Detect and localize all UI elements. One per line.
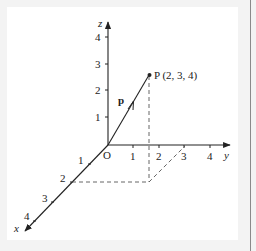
y-axis: 1 2 3 4 y <box>108 145 230 162</box>
x-axis: 1 2 3 4 x <box>13 145 108 234</box>
x-tick-2: 2 <box>60 172 66 184</box>
vector-label: p <box>118 94 124 106</box>
y-tick-2: 2 <box>156 150 162 162</box>
position-vector-p: p <box>108 75 149 145</box>
z-tick-2: 2 <box>95 84 101 96</box>
y-tick-3: 3 <box>181 150 187 162</box>
x-axis-label: x <box>13 222 19 234</box>
y-tick-4: 4 <box>207 150 213 162</box>
x-tick-3: 3 <box>42 192 48 204</box>
point-p: P (2, 3, 4) <box>148 69 198 82</box>
z-tick-4: 4 <box>95 31 101 43</box>
point-label: P (2, 3, 4) <box>154 69 198 82</box>
x-tick-4: 4 <box>24 210 30 222</box>
z-tick-1: 1 <box>95 111 101 123</box>
y-tick-1: 1 <box>130 150 136 162</box>
z-tick-3: 3 <box>95 58 101 70</box>
projection-lines <box>72 76 185 182</box>
origin-label: O <box>103 149 111 161</box>
coordinate-diagram: z 4 3 2 1 1 2 3 4 y 1 2 3 4 x O <box>0 0 256 251</box>
y-axis-label: y <box>223 149 229 161</box>
z-axis: z 4 3 2 1 <box>95 17 108 145</box>
z-axis-label: z <box>97 17 103 29</box>
x-tick-1: 1 <box>78 154 84 166</box>
